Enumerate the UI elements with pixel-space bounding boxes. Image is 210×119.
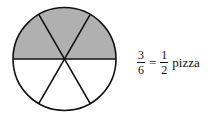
unshaded-half: [13, 59, 116, 110]
pizza-diagram: [0, 0, 130, 119]
numerator: 3: [137, 49, 145, 63]
denominator: 2: [161, 63, 167, 76]
fraction-three-sixths: 3 6: [137, 49, 145, 76]
equals-sign: =: [149, 55, 156, 71]
shaded-half: [13, 8, 116, 59]
denominator: 6: [138, 63, 144, 76]
unit-label: pizza: [172, 55, 199, 71]
numerator: 1: [160, 49, 168, 63]
fraction-equation: 3 6 = 1 2 pizza: [137, 49, 200, 76]
fraction-one-half: 1 2: [160, 49, 168, 76]
